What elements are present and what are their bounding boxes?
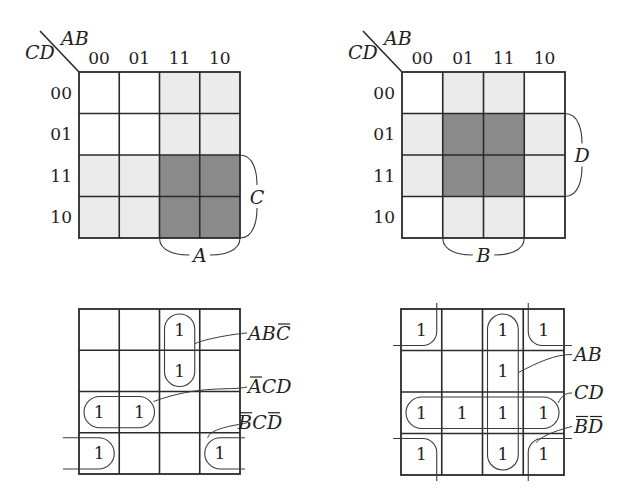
light-shaded-cell xyxy=(79,155,119,197)
term-label-BbarDbar: BD xyxy=(573,415,603,437)
kmap-map-B-D: ABCD0001111000011110 xyxy=(348,27,565,238)
row-variables-label: CD xyxy=(348,41,378,63)
kmap-map-A-C: ABCD0001111000011110 xyxy=(25,27,240,238)
term-label-AB: AB xyxy=(572,343,602,365)
term-label-BbarCDbar: BCD xyxy=(237,411,282,433)
group-loop-BbarCDbar-left xyxy=(63,438,114,469)
cell-value-one: 1 xyxy=(134,402,145,422)
column-header: 11 xyxy=(493,48,515,68)
cell-value-one: 1 xyxy=(94,402,105,422)
cell-value-one: 1 xyxy=(214,443,225,463)
dark-shaded-cell xyxy=(484,155,525,197)
light-shaded-cell xyxy=(402,155,443,197)
light-shaded-cell xyxy=(200,72,240,114)
light-shaded-cell xyxy=(200,114,240,156)
row-header: 00 xyxy=(50,83,72,103)
term-variable: A xyxy=(246,322,262,344)
cell-value-one: 1 xyxy=(497,444,508,464)
term-variable: D xyxy=(587,415,603,437)
term-variable: D xyxy=(275,375,291,397)
cell-value-one: 1 xyxy=(174,361,185,381)
row-header: 01 xyxy=(373,124,395,144)
column-header: 10 xyxy=(209,48,231,68)
light-shaded-cell xyxy=(160,114,200,156)
brace-D-bottom xyxy=(565,167,582,197)
row-header: 01 xyxy=(50,124,72,144)
brace-B-right xyxy=(494,238,524,255)
cell-value-one: 1 xyxy=(497,320,508,340)
term-variable: C xyxy=(276,322,291,344)
light-shaded-cell xyxy=(79,197,119,239)
brace-B-left xyxy=(443,238,473,255)
dark-shaded-cell xyxy=(160,155,200,197)
row-variables-label: CD xyxy=(25,41,55,63)
dark-shaded-cell xyxy=(200,155,240,197)
light-shaded-cell xyxy=(524,114,565,156)
brace-label-C: C xyxy=(250,186,265,208)
dark-shaded-cell xyxy=(484,114,525,156)
kmap-map-groups-2: 11111111111ABCDBD xyxy=(393,303,604,481)
light-shaded-cell xyxy=(443,197,484,239)
brace-label-B: B xyxy=(476,244,491,266)
dark-shaded-cell xyxy=(443,114,484,156)
light-shaded-cell xyxy=(119,197,159,239)
cell-value-one: 1 xyxy=(457,403,468,423)
light-shaded-cell xyxy=(119,155,159,197)
row-header: 10 xyxy=(50,207,72,227)
term-variable: B xyxy=(573,415,588,437)
light-shaded-cell xyxy=(484,72,525,114)
kmap-map-groups-1: 111111ABCACDBCD xyxy=(63,309,292,474)
cell-value-one: 1 xyxy=(538,444,549,464)
term-variable: C xyxy=(574,381,589,403)
term-variable: C xyxy=(262,375,277,397)
brace-C-top xyxy=(240,155,257,185)
row-header: 11 xyxy=(50,166,72,186)
cell-value-one: 1 xyxy=(416,403,427,423)
column-header: 01 xyxy=(452,48,474,68)
term-variable: D xyxy=(266,411,282,433)
leader-CD xyxy=(558,393,572,403)
brace-D-top xyxy=(565,114,582,144)
karnaugh-map-figure: ABCD0001111000011110ABCD0001111000011110… xyxy=(0,0,628,493)
term-variable: B xyxy=(261,322,276,344)
brace-label-D: D xyxy=(573,144,589,166)
column-variables-label: AB xyxy=(59,27,89,49)
column-header: 10 xyxy=(534,48,556,68)
row-header: 10 xyxy=(373,207,395,227)
term-variable: C xyxy=(252,411,267,433)
light-shaded-cell xyxy=(160,72,200,114)
column-header: 11 xyxy=(169,48,191,68)
light-shaded-cell xyxy=(402,114,443,156)
column-header: 00 xyxy=(412,48,434,68)
brace-A-left xyxy=(160,238,190,255)
dark-shaded-cell xyxy=(200,197,240,239)
column-header: 00 xyxy=(88,48,110,68)
term-variable: D xyxy=(588,381,604,403)
light-shaded-cell xyxy=(484,197,525,239)
term-variable: A xyxy=(246,375,262,397)
light-shaded-cell xyxy=(443,72,484,114)
light-shaded-cell xyxy=(524,155,565,197)
term-label-AbarCD: ACD xyxy=(246,375,292,397)
row-header: 11 xyxy=(373,166,395,186)
term-variable: A xyxy=(572,343,588,365)
cell-value-one: 1 xyxy=(538,320,549,340)
term-label-ABCbar: ABC xyxy=(246,322,291,344)
cell-value-one: 1 xyxy=(174,320,185,340)
term-variable: B xyxy=(587,343,602,365)
cell-value-one: 1 xyxy=(538,403,549,423)
column-header: 01 xyxy=(129,48,151,68)
term-label-CD: CD xyxy=(574,381,604,403)
cell-value-one: 1 xyxy=(497,403,508,423)
column-variables-label: AB xyxy=(382,27,412,49)
cell-value-one: 1 xyxy=(416,444,427,464)
term-variable: B xyxy=(237,411,252,433)
brace-C-bottom xyxy=(240,208,257,238)
cell-value-one: 1 xyxy=(497,361,508,381)
cell-value-one: 1 xyxy=(94,443,105,463)
cell-value-one: 1 xyxy=(416,320,427,340)
brace-A-right xyxy=(210,238,240,255)
dark-shaded-cell xyxy=(160,197,200,239)
dark-shaded-cell xyxy=(443,155,484,197)
row-header: 00 xyxy=(373,83,395,103)
